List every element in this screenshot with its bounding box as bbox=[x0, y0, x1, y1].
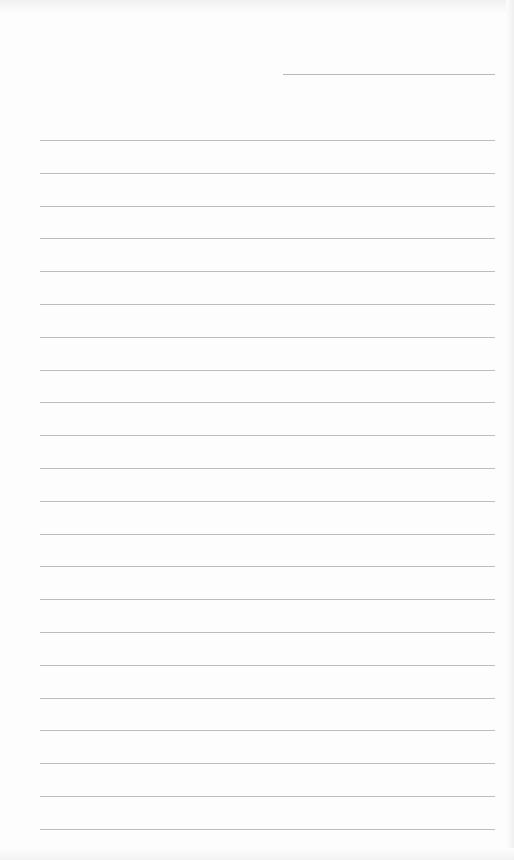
ruled-line[interactable] bbox=[40, 435, 495, 436]
ruled-line[interactable] bbox=[40, 402, 495, 403]
ruled-line[interactable] bbox=[40, 337, 495, 338]
page-top-shadow bbox=[0, 0, 514, 14]
ruled-line[interactable] bbox=[40, 796, 495, 797]
ruled-line[interactable] bbox=[40, 140, 495, 141]
ruled-line[interactable] bbox=[40, 304, 495, 305]
ruled-line[interactable] bbox=[40, 173, 495, 174]
ruled-line[interactable] bbox=[40, 730, 495, 731]
ruled-line[interactable] bbox=[40, 468, 495, 469]
ruled-line[interactable] bbox=[40, 599, 495, 600]
ruled-line[interactable] bbox=[40, 698, 495, 699]
ruled-line[interactable] bbox=[40, 632, 495, 633]
ruled-line[interactable] bbox=[40, 206, 495, 207]
ruled-line[interactable] bbox=[40, 763, 495, 764]
ruled-line[interactable] bbox=[40, 534, 495, 535]
ruled-line[interactable] bbox=[40, 370, 495, 371]
ruled-line[interactable] bbox=[40, 501, 495, 502]
ruled-line[interactable] bbox=[40, 665, 495, 666]
ruled-line[interactable] bbox=[40, 566, 495, 567]
date-header-line[interactable] bbox=[283, 74, 495, 75]
ruled-line[interactable] bbox=[40, 829, 495, 830]
ruled-line[interactable] bbox=[40, 271, 495, 272]
page-bottom-shadow bbox=[0, 848, 514, 860]
page-right-shadow bbox=[506, 0, 514, 860]
ruled-line[interactable] bbox=[40, 238, 495, 239]
